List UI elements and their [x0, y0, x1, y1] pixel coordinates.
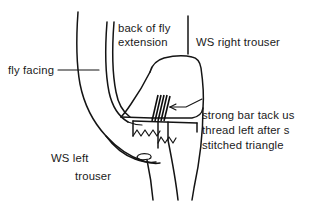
- label-ws-left-trouser-line1: WS left: [51, 152, 89, 164]
- bar-tack-stitches: [152, 95, 170, 121]
- diagram-canvas: back of fly extension WS right trouser f…: [0, 0, 311, 206]
- left-flap-zigzag-edge: [133, 130, 160, 136]
- bar-tack-arrow: [170, 99, 202, 110]
- right-flap-zigzag-edge: [158, 137, 176, 143]
- label-bar-tack-note-line1: strong bar tack us: [202, 109, 295, 121]
- label-back-of-fly-line1: back of fly: [118, 22, 171, 34]
- label-bar-tack-note-line3: stitched triangle: [202, 139, 284, 151]
- bottom-tab-detail: [137, 154, 151, 160]
- ws-left-trouser-body: [106, 136, 160, 163]
- label-ws-left-trouser-line2: trouser: [75, 170, 111, 182]
- fly-facing-curve: [77, 12, 143, 161]
- label-ws-right-trouser: WS right trouser: [196, 36, 280, 48]
- label-bar-tack-note-line2: thread left after s: [202, 124, 290, 136]
- right-trouser-panel: [121, 56, 203, 118]
- label-fly-facing: fly facing: [8, 64, 54, 76]
- label-back-of-fly-line2: extension: [118, 36, 168, 48]
